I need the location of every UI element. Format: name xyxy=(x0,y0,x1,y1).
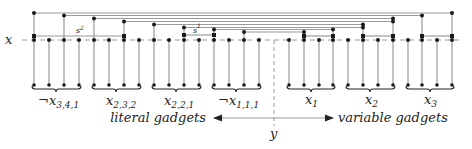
literal-gadget-label: x2,2,1 xyxy=(164,93,194,110)
axis-dots xyxy=(32,38,454,42)
variable-gadget-label: x1 xyxy=(305,92,318,109)
bottom-dots xyxy=(32,83,454,87)
literal-gadget-label: ¬x3,4,1 xyxy=(38,93,79,110)
variable-gadget-label: x2 xyxy=(365,92,378,109)
gadget-verticals xyxy=(34,40,452,85)
variable-gadgets-label: variable gadgets xyxy=(338,110,448,125)
literal-gadget-labels: ¬x3,4,1 x2,3,2 x2,2,1 ¬x1,1,1 xyxy=(38,93,259,110)
literal-gadgets-label: literal gadgets xyxy=(110,110,206,125)
connection-dots xyxy=(32,11,454,34)
y-axis-label: y xyxy=(269,126,278,141)
variable-gadget-label: x3 xyxy=(424,92,437,109)
pair-label-s2: s2 xyxy=(76,24,84,35)
gadget-braces xyxy=(32,86,454,92)
literal-gadget-label: x2,3,2 xyxy=(106,93,137,110)
x-axis-label: x xyxy=(5,32,13,47)
gadget-diagram: s2 s1 x y xyxy=(0,0,472,149)
literal-gadget-label: ¬x1,1,1 xyxy=(218,93,259,110)
variable-gadget-labels: x1 x2 x3 xyxy=(305,92,437,109)
pair-lines xyxy=(34,35,452,36)
